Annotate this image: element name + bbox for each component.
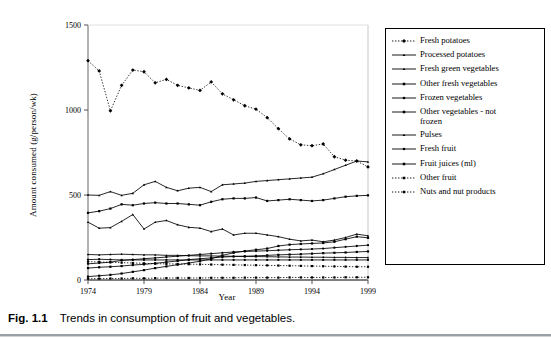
legend-item[interactable]: Fresh green vegetables [391, 63, 540, 74]
y-tick-label: 500 [69, 191, 81, 200]
legend-item[interactable]: Fresh potatoes [391, 35, 540, 46]
legend-marker-icon [391, 50, 417, 60]
caption-text: Trends in consumption of fruit and veget… [60, 312, 295, 324]
legend-item-label: Fresh fruit [420, 143, 456, 153]
y-tick-label: 1000 [65, 106, 81, 115]
legend-item-label: Fresh green vegetables [420, 63, 499, 73]
legend-marker-icon [391, 79, 417, 89]
figure-page: 050010001500197419791984198919941999 Amo… [0, 0, 551, 339]
legend-item[interactable]: Processed potatoes [391, 49, 540, 60]
legend-marker-icon [391, 36, 417, 46]
chart-series [87, 258, 369, 261]
legend-marker-icon [391, 64, 417, 74]
legend-item-label: Fresh potatoes [420, 35, 470, 45]
legend-item-label: Fruit juices (ml) [420, 158, 476, 168]
chart-legend: Fresh potatoesProcessed potatoesFresh gr… [385, 28, 545, 265]
legend-item[interactable]: Fruit juices (ml) [391, 158, 540, 169]
legend-marker-icon [391, 187, 417, 197]
y-tick-label: 1500 [65, 21, 81, 30]
legend-item-label: Other fresh vegetables [420, 78, 497, 88]
legend-item[interactable]: Nuts and nut products [391, 186, 540, 197]
figure-caption: Fig. 1.1Trends in consumption of fruit a… [8, 312, 543, 324]
chart-series [87, 194, 369, 214]
x-axis-title: Year [88, 292, 366, 302]
chart-series [87, 160, 369, 196]
legend-marker-icon [391, 173, 417, 183]
chart-series [87, 213, 369, 242]
chart-series [87, 276, 369, 280]
legend-item-label: Frozen vegetables [420, 92, 482, 102]
legend-marker-icon [391, 159, 417, 169]
legend-item[interactable]: Frozen vegetables [391, 92, 540, 103]
legend-item[interactable]: Other vegetables - not frozen [391, 106, 540, 126]
legend-item-label: Other fruit [420, 172, 457, 182]
y-tick-label: 0 [77, 276, 81, 285]
caption-number: Fig. 1.1 [8, 312, 48, 324]
legend-item[interactable]: Pulses [391, 129, 540, 140]
legend-marker-icon [391, 93, 417, 103]
legend-item-label: Other vegetables - not frozen [420, 106, 496, 126]
chart-series [86, 59, 370, 169]
legend-item[interactable]: Other fresh vegetables [391, 78, 540, 89]
legend-item[interactable]: Other fruit [391, 172, 540, 183]
legend-item[interactable]: Fresh fruit [391, 143, 540, 154]
y-axis-title: Amount consumed (g/person/wk) [28, 60, 38, 250]
legend-item-label: Pulses [420, 129, 442, 139]
page-rule-secondary [0, 336, 551, 337]
legend-marker-icon [391, 107, 417, 117]
chart-figure: 050010001500197419791984198919941999 Amo… [0, 0, 551, 305]
legend-marker-icon [391, 144, 417, 154]
legend-item-label: Processed potatoes [420, 49, 485, 59]
chart-series [87, 261, 369, 268]
legend-item-label: Nuts and nut products [420, 186, 496, 196]
legend-marker-icon [391, 130, 417, 140]
